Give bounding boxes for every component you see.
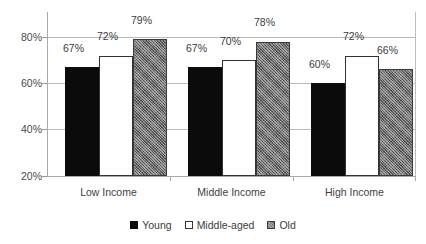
category-label-high-income: High Income [293, 186, 416, 198]
value-label-middle-income-middle-aged: 70% [205, 36, 256, 47]
value-label-low-income-old: 79% [116, 15, 167, 26]
bar-low-income-young [65, 67, 99, 176]
group-divider-tick-3 [415, 176, 416, 181]
ytick-label-80: 80% [2, 32, 42, 43]
bar-low-income-middle-aged [99, 56, 133, 176]
bar-chart: 80% 60% 40% 20% 67% 72% 79% 67% 70% 78% … [0, 0, 426, 244]
plot-right-border [415, 12, 416, 177]
bar-middle-income-young [188, 67, 222, 176]
group-divider-tick-2 [293, 176, 294, 181]
bar-low-income-old [133, 39, 167, 176]
legend-item-young: Young [130, 219, 171, 231]
category-label-middle-income: Middle Income [170, 186, 293, 198]
value-label-high-income-middle-aged: 72% [328, 31, 379, 42]
legend-swatch-old-icon [267, 221, 275, 229]
value-label-high-income-young: 60% [294, 59, 345, 70]
legend-label-middle-aged: Middle-aged [197, 219, 255, 231]
group-divider-tick-1 [170, 176, 171, 181]
bar-high-income-middle-aged [345, 56, 379, 176]
value-label-low-income-young: 67% [48, 43, 99, 54]
legend-item-old: Old [267, 219, 295, 231]
category-label-low-income: Low Income [47, 186, 170, 198]
ytick-label-20: 20% [2, 171, 42, 182]
bar-middle-income-middle-aged [222, 60, 256, 176]
value-label-middle-income-old: 78% [239, 17, 290, 28]
bar-high-income-young [311, 83, 345, 176]
legend-item-middle-aged: Middle-aged [185, 219, 255, 231]
legend-label-young: Young [142, 219, 171, 231]
legend-swatch-middle-aged-icon [185, 221, 193, 229]
value-label-high-income-old: 66% [362, 45, 413, 56]
chart-legend: Young Middle-aged Old [0, 219, 426, 231]
x-axis-line [47, 176, 416, 177]
ytick-label-40: 40% [2, 124, 42, 135]
bar-middle-income-old [256, 42, 290, 176]
legend-swatch-young-icon [130, 221, 138, 229]
bar-high-income-old [379, 69, 413, 176]
ytick-label-60: 60% [2, 78, 42, 89]
value-label-low-income-middle-aged: 72% [82, 31, 133, 42]
legend-label-old: Old [279, 219, 295, 231]
